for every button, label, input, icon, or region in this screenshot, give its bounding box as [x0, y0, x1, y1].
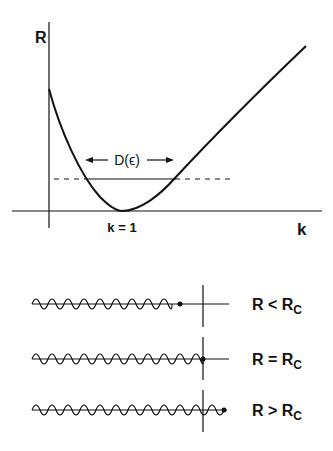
- top-plot: D(ϵ) R k k = 1: [12, 22, 322, 239]
- r-curve: [49, 46, 306, 211]
- x-axis-label: k: [297, 220, 307, 239]
- endpoint-dot: [178, 302, 183, 307]
- row-label: R > RC: [252, 402, 302, 423]
- minimum-label: k = 1: [107, 220, 136, 235]
- figure-canvas: D(ϵ) R k k = 1 R < RC R = RC R > RC: [0, 0, 333, 451]
- row-r-greater-rc: R > RC: [32, 390, 302, 432]
- left-arrow-icon: [85, 157, 108, 163]
- row-r-equal-rc: R = RC: [32, 337, 302, 380]
- endpoint-dot: [222, 408, 227, 413]
- row-label: R < RC: [252, 296, 302, 317]
- width-label: D(ϵ): [114, 152, 140, 168]
- row-label: R = RC: [252, 351, 302, 372]
- right-arrow-icon: [147, 157, 174, 163]
- y-axis-label: R: [35, 29, 47, 46]
- row-r-less-rc: R < RC: [32, 285, 302, 327]
